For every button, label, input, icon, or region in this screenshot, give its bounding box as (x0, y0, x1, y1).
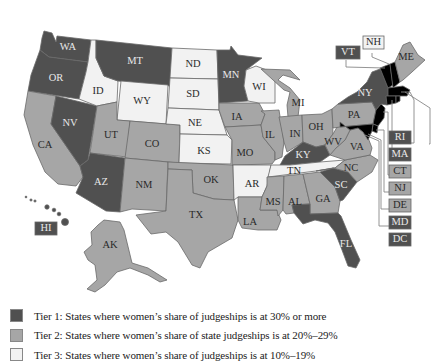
legend-item-tier1: Tier 1: States where women’s share of ju… (10, 306, 338, 326)
label-CA: CA (38, 139, 53, 150)
label-SD: SD (186, 88, 200, 99)
callout-DE[interactable]: DE (389, 199, 411, 212)
svg-text:NJ: NJ (394, 182, 406, 193)
legend-label: Tier 2: States where women’s share of st… (34, 329, 338, 341)
callout-HI[interactable]: HI (35, 222, 57, 235)
label-ID: ID (92, 85, 103, 96)
label-MS: MS (265, 196, 280, 207)
label-FL: FL (340, 238, 352, 249)
label-LA: LA (243, 216, 257, 227)
callout-NH[interactable]: NH (363, 36, 384, 49)
callout-CT[interactable]: CT (389, 165, 411, 178)
svg-text:VT: VT (341, 46, 356, 57)
svg-text:NH: NH (366, 36, 382, 47)
svg-text:DC: DC (393, 233, 408, 244)
state-MA[interactable] (388, 86, 410, 96)
svg-text:HI: HI (40, 222, 52, 233)
label-MN: MN (223, 69, 240, 80)
label-AR: AR (245, 178, 260, 189)
label-IA: IA (231, 111, 242, 122)
label-AZ: AZ (94, 176, 108, 187)
swatch-tier2 (10, 329, 23, 342)
swatch-tier3 (10, 348, 23, 361)
callout-RI[interactable]: RI (389, 131, 411, 144)
label-NM: NM (136, 179, 154, 190)
callout-MD[interactable]: MD (389, 216, 411, 229)
label-TX: TX (189, 209, 203, 220)
svg-text:DE: DE (393, 199, 407, 210)
label-OH: OH (308, 121, 324, 132)
svg-text:RI: RI (395, 131, 406, 142)
label-MI: MI (292, 97, 305, 108)
legend: Tier 1: States where women’s share of ju… (10, 306, 338, 364)
label-MT: MT (127, 55, 143, 66)
callout-NJ[interactable]: NJ (389, 182, 411, 195)
svg-text:MD: MD (392, 216, 409, 227)
label-PA: PA (348, 109, 361, 120)
label-TN: TN (287, 165, 301, 176)
label-VA: VA (350, 141, 364, 152)
label-GA: GA (315, 193, 331, 204)
label-WY: WY (133, 95, 151, 106)
label-NV: NV (62, 117, 78, 128)
state-CT[interactable] (386, 96, 396, 105)
legend-label: Tier 3: States where women’s share of ju… (34, 349, 315, 361)
state-RI[interactable] (396, 96, 400, 103)
label-KS: KS (197, 145, 211, 156)
callout-DC[interactable]: DC (389, 233, 411, 246)
label-ME: ME (398, 51, 414, 62)
label-UT: UT (104, 129, 119, 140)
label-MO: MO (237, 147, 254, 158)
label-OR: OR (49, 72, 64, 83)
label-IL: IL (265, 129, 275, 140)
label-OK: OK (203, 174, 219, 185)
swatch-tier1 (10, 309, 23, 322)
label-KY: KY (295, 149, 311, 160)
state-FL[interactable] (292, 204, 360, 268)
label-NC: NC (344, 162, 359, 173)
legend-item-tier2: Tier 2: States where women’s share of st… (10, 326, 338, 346)
callout-MA[interactable]: MA (389, 148, 411, 161)
label-ND: ND (185, 58, 201, 69)
label-WI: WI (252, 81, 266, 92)
callout-VT[interactable]: VT (336, 46, 360, 59)
legend-label: Tier 1: States where women’s share of ju… (34, 310, 326, 322)
label-AL: AL (288, 196, 302, 207)
svg-text:CT: CT (393, 165, 407, 176)
label-CO: CO (145, 138, 160, 149)
us-map: WA OR CA NV ID MT WY UT CO AZ NM ND SD N… (0, 0, 435, 300)
label-NY: NY (357, 87, 373, 98)
legend-item-tier3: Tier 3: States where women’s share of ju… (10, 345, 338, 364)
label-IN: IN (289, 128, 300, 139)
label-WA: WA (60, 41, 77, 52)
svg-text:MA: MA (392, 148, 409, 159)
label-WV: WV (324, 136, 342, 147)
label-AK: AK (102, 239, 118, 250)
label-SC: SC (335, 179, 348, 190)
state-HI[interactable] (25, 196, 68, 225)
label-NE: NE (188, 117, 202, 128)
